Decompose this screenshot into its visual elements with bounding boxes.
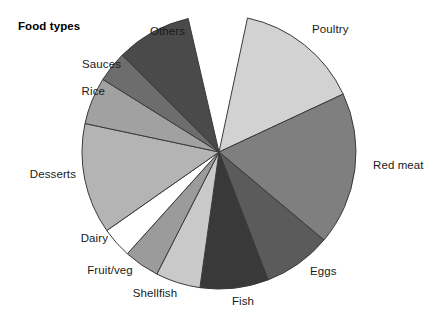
pie-slice-group [82, 18, 356, 289]
pie-chart-svg [0, 0, 437, 320]
chart-title: Food types [18, 20, 80, 32]
pie-label-poultry: Poultry [312, 23, 349, 35]
pie-label-fish: Fish [232, 295, 254, 307]
pie-label-eggs: Eggs [310, 265, 337, 277]
pie-chart-figure: Food types PoultryRed meatEggsFishShellf… [0, 0, 437, 320]
pie-label-dairy: Dairy [81, 232, 108, 244]
pie-label-desserts: Desserts [30, 168, 76, 180]
pie-label-shellfish: Shellfish [133, 287, 177, 299]
pie-label-others: Others [150, 25, 185, 37]
pie-label-rice: Rice [82, 85, 105, 97]
pie-label-fruit-veg: Fruit/veg [87, 264, 133, 276]
pie-label-sauces: Sauces [82, 58, 121, 70]
pie-label-red-meat: Red meat [373, 159, 424, 171]
